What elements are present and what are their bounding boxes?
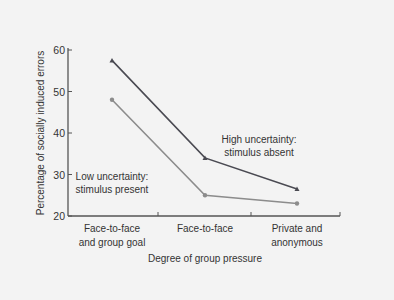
circle-marker-icon — [203, 193, 207, 197]
x-category-label: Face-to-face — [177, 223, 234, 234]
y-tick-label: 60 — [53, 44, 65, 56]
series-annotation: Low uncertainty: — [76, 171, 149, 182]
series-annotation: High uncertainty: — [221, 134, 296, 145]
y-tick-label: 20 — [53, 210, 65, 222]
triangle-marker-icon — [110, 58, 115, 63]
labels: High uncertainty:stimulus absentLow unce… — [76, 134, 297, 195]
circle-marker-icon — [295, 201, 299, 205]
series-annotation: stimulus present — [76, 184, 149, 195]
circle-marker-icon — [110, 98, 114, 102]
y-tick-label: 30 — [53, 169, 65, 181]
chart-svg: 2030405060Face-to-faceand group goalFace… — [0, 0, 394, 300]
series-annotation: stimulus absent — [224, 147, 294, 158]
series-line — [112, 60, 297, 189]
x-category-label: Private and — [272, 223, 323, 234]
x-category-label: Face-to-face — [84, 223, 141, 234]
axes: 2030405060Face-to-faceand group goalFace… — [35, 44, 340, 264]
x-category-label: anonymous — [271, 237, 323, 248]
y-tick-label: 40 — [53, 127, 65, 139]
y-tick-label: 50 — [53, 86, 65, 98]
x-axis-title: Degree of group pressure — [148, 253, 262, 264]
line-chart: 2030405060Face-to-faceand group goalFace… — [0, 0, 394, 300]
y-axis-title: Percentage of socially induced errors — [35, 51, 46, 216]
x-category-label: and group goal — [79, 237, 146, 248]
